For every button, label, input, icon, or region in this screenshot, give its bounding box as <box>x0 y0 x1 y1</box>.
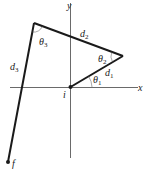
theta1-label: θ1 <box>93 74 102 87</box>
theta1-arc <box>89 76 92 87</box>
x-axis-label: x <box>137 82 143 93</box>
y-axis-label: y <box>66 0 72 11</box>
vector-d2 <box>34 23 123 56</box>
theta2-label: θ2 <box>98 53 107 66</box>
d3-label: d3 <box>10 61 19 74</box>
origin-point <box>69 85 73 89</box>
vector-diagram: y x i f d1 d2 d3 θ1 θ2 θ3 <box>0 0 147 179</box>
theta3-label: θ3 <box>39 36 48 49</box>
end-point <box>6 160 10 164</box>
end-label: f <box>12 158 16 169</box>
d1-label: d1 <box>105 67 114 80</box>
vector-d3 <box>8 23 34 162</box>
theta2-arc <box>111 52 113 62</box>
d2-label: d2 <box>80 28 89 41</box>
origin-label: i <box>63 89 66 100</box>
